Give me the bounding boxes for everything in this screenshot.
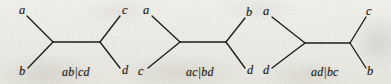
leaf-label-a: a	[143, 4, 149, 17]
pendant-edge-d	[226, 42, 245, 68]
pendant-edge-c	[148, 42, 180, 68]
leaf-label-c: c	[122, 4, 128, 17]
pendant-edge-b	[350, 43, 366, 68]
leaf-label-c: c	[138, 65, 144, 78]
pendant-edge-a	[152, 16, 180, 42]
leaf-label-d: d	[122, 64, 128, 77]
leaf-label-a: a	[19, 4, 25, 17]
split-caption-ab-cd: ab|cd	[62, 66, 90, 78]
leaf-label-c: c	[366, 5, 372, 18]
split-caption-ad-bc: ad|bc	[311, 66, 339, 78]
leaf-label-b: b	[367, 65, 373, 78]
leaf-label-d: d	[263, 64, 269, 77]
leaf-label-b: b	[246, 6, 252, 19]
leaf-label-b: b	[19, 65, 25, 78]
pendant-edge-b	[28, 42, 53, 68]
pendant-edge-a	[27, 16, 53, 42]
pendant-edge-c	[350, 17, 366, 43]
pendant-edge-a	[272, 17, 305, 43]
pendant-edge-b	[226, 18, 245, 42]
leaf-label-a: a	[263, 5, 269, 18]
leaf-label-d: d	[247, 64, 253, 77]
quartet-trees-figure: a b c d ab|cd a c b d ac|bd a d c b ad|b…	[0, 0, 391, 84]
pendant-edge-d	[100, 42, 120, 68]
branch-lines	[27, 16, 366, 68]
pendant-edge-d	[272, 43, 305, 68]
split-caption-ac-bd: ac|bd	[186, 66, 214, 78]
pendant-edge-c	[100, 16, 120, 42]
